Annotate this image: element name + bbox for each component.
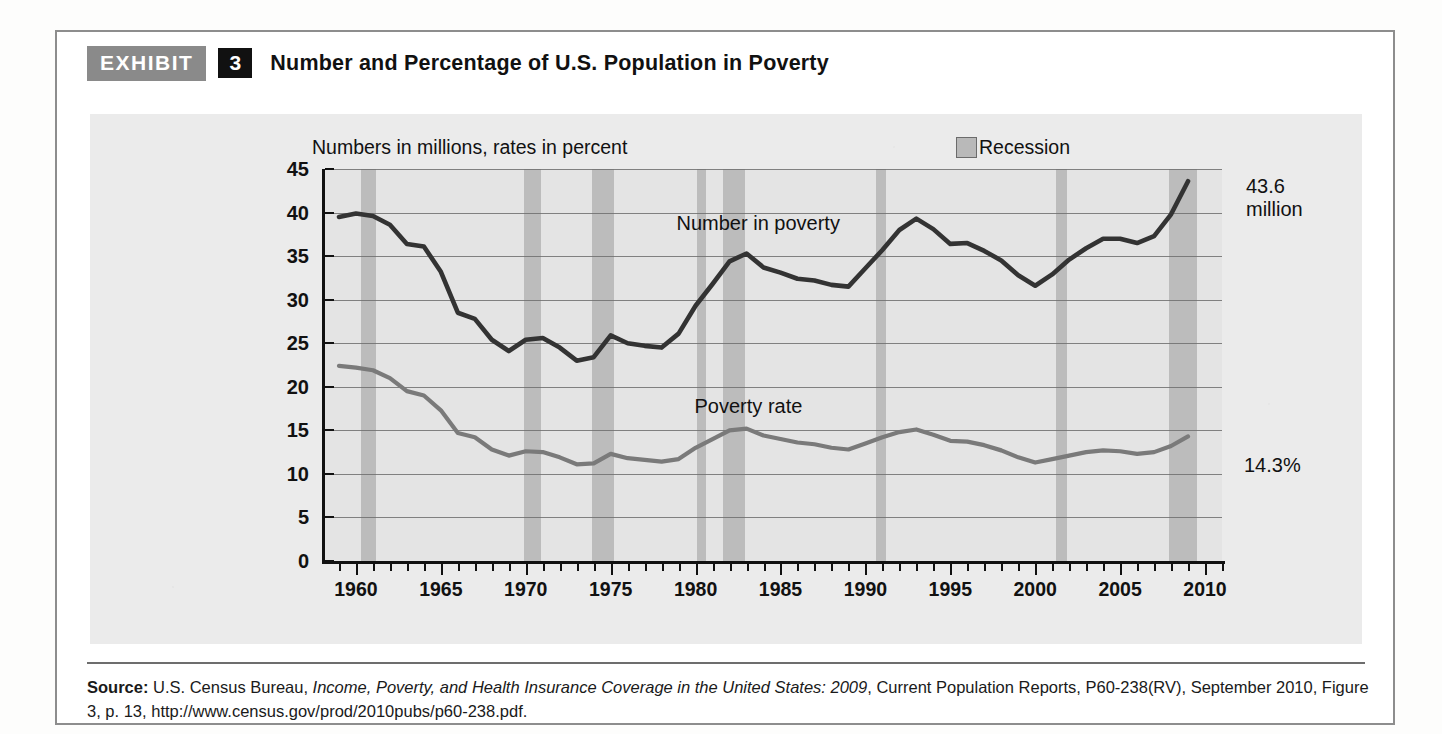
series-line <box>339 181 1188 360</box>
exhibit-tag: EXHIBIT <box>87 46 206 81</box>
exhibit-card: EXHIBIT 3 Number and Percentage of U.S. … <box>55 30 1395 725</box>
y-axis-tick <box>325 168 334 170</box>
x-axis-tick <box>780 564 782 575</box>
x-axis-tick <box>628 564 630 571</box>
x-axis-tick <box>882 564 884 571</box>
x-axis-tick <box>1137 564 1139 571</box>
x-axis-tick <box>509 564 511 571</box>
x-axis-tick <box>373 564 375 571</box>
x-axis-tick <box>1103 564 1105 571</box>
y-axis-label: 15 <box>287 419 309 442</box>
x-axis-tick <box>1120 564 1122 575</box>
recession-swatch-icon <box>956 137 977 158</box>
y-axis: 051015202530354045 <box>322 169 325 561</box>
x-axis-tick <box>933 564 935 571</box>
x-axis-tick <box>390 564 392 571</box>
x-axis-tick <box>645 564 647 571</box>
y-axis-label: 30 <box>287 288 309 311</box>
x-axis-tick <box>1205 564 1207 575</box>
x-axis-tick <box>865 564 867 575</box>
chart-subtitle: Numbers in millions, rates in percent <box>312 136 627 159</box>
x-axis-tick <box>662 564 664 571</box>
x-axis-tick <box>407 564 409 571</box>
x-axis-tick <box>526 564 528 575</box>
legend-item-recession: Recession <box>979 136 1070 159</box>
x-axis-tick <box>764 564 766 571</box>
x-axis-tick <box>1035 564 1037 575</box>
x-axis-tick <box>1001 564 1003 571</box>
y-axis-tick <box>325 299 334 301</box>
x-axis-tick <box>730 564 732 571</box>
x-axis-tick <box>967 564 969 571</box>
annotation-number-end: 43.6 million <box>1246 175 1303 220</box>
x-axis-label: 1975 <box>589 578 632 601</box>
x-axis-tick <box>696 564 698 575</box>
x-axis-tick <box>1154 564 1156 571</box>
x-axis-tick <box>424 564 426 571</box>
source-note: Source: U.S. Census Bureau, Income, Pove… <box>87 676 1377 724</box>
chart-plate: Numbers in millions, rates in percent Re… <box>90 114 1362 644</box>
x-axis-tick <box>543 564 545 571</box>
x-axis-tick <box>1188 564 1190 571</box>
x-axis-tick <box>475 564 477 571</box>
y-axis-label: 0 <box>298 550 309 573</box>
exhibit-number: 3 <box>218 48 252 78</box>
y-axis-label: 10 <box>287 462 309 485</box>
y-axis-label: 45 <box>287 158 309 181</box>
x-axis-label: 1960 <box>334 578 377 601</box>
x-axis: 1960196519701975198019851990199520002005… <box>322 561 1225 564</box>
source-publication-title: Income, Poverty, and Health Insurance Co… <box>313 678 868 696</box>
x-axis-tick <box>831 564 833 571</box>
chart-canvas: Numbers in millions, rates in percent Re… <box>90 114 1362 644</box>
x-axis-tick <box>916 564 918 571</box>
x-axis-tick <box>1086 564 1088 571</box>
y-axis-label: 35 <box>287 245 309 268</box>
x-axis-tick <box>984 564 986 571</box>
source-agency: U.S. Census Bureau, <box>148 678 312 696</box>
annotation-number-unit: million <box>1246 198 1303 220</box>
y-axis-tick <box>325 212 334 214</box>
x-axis-tick <box>848 564 850 571</box>
y-axis-tick <box>325 386 334 388</box>
x-axis-tick <box>950 564 952 575</box>
series-label-number-in-poverty: Number in poverty <box>677 212 840 235</box>
x-axis-tick <box>441 564 443 575</box>
x-axis-label: 1970 <box>504 578 547 601</box>
y-axis-label: 20 <box>287 375 309 398</box>
x-axis-label: 1965 <box>419 578 462 601</box>
source-divider <box>87 662 1365 664</box>
x-axis-tick <box>679 564 681 571</box>
chart-legend: Recession <box>956 136 1070 159</box>
x-axis-tick <box>1222 564 1224 571</box>
series-label-poverty-rate: Poverty rate <box>695 395 803 418</box>
x-axis-label: 1985 <box>759 578 802 601</box>
x-axis-label: 2005 <box>1098 578 1141 601</box>
x-axis-tick <box>797 564 799 571</box>
x-axis-label: 1980 <box>674 578 717 601</box>
x-axis-tick <box>1171 564 1173 571</box>
x-axis-label: 1995 <box>929 578 972 601</box>
y-axis-tick <box>325 342 334 344</box>
x-axis-tick <box>560 564 562 571</box>
y-axis-label: 5 <box>298 506 309 529</box>
x-axis-label: 2000 <box>1014 578 1057 601</box>
x-axis-tick <box>1052 564 1054 571</box>
page-title: Number and Percentage of U.S. Population… <box>270 51 829 76</box>
x-axis-tick <box>356 564 358 575</box>
x-axis-tick <box>594 564 596 571</box>
x-axis-tick <box>747 564 749 571</box>
annotation-rate-end: 14.3% <box>1244 454 1301 476</box>
y-axis-label: 25 <box>287 332 309 355</box>
annotation-number-value: 43.6 <box>1246 175 1303 197</box>
y-axis-tick <box>325 255 334 257</box>
x-axis-label: 1990 <box>844 578 887 601</box>
x-axis-tick <box>458 564 460 571</box>
y-axis-label: 40 <box>287 201 309 224</box>
y-axis-tick <box>325 429 334 431</box>
x-axis-tick <box>339 564 341 571</box>
source-prefix: Source: <box>87 678 148 696</box>
x-axis-tick <box>1069 564 1071 571</box>
x-axis-tick <box>611 564 613 575</box>
x-axis-tick <box>814 564 816 571</box>
y-axis-tick <box>325 516 334 518</box>
